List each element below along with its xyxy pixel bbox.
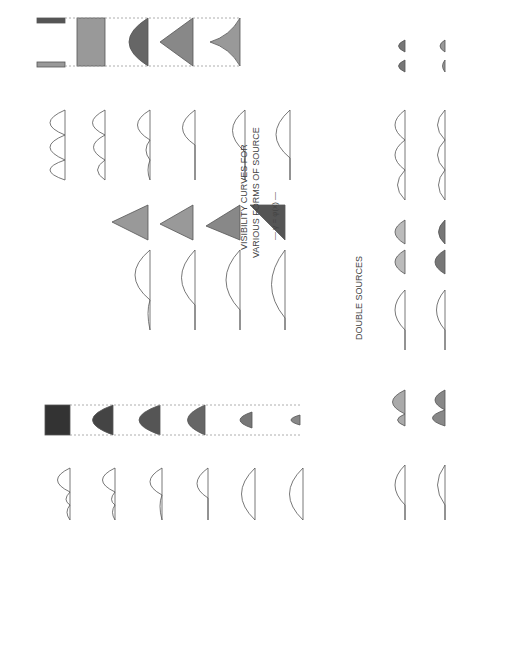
double-sources-rot: DOUBLE SOURCES xyxy=(355,256,364,340)
legend-rot: — γ = φ(x) — xyxy=(270,192,279,240)
title-line-1-rot: VISIBILITY CURVES FOR xyxy=(239,144,249,250)
title-rot: VISIBILITY CURVES FOR xyxy=(240,144,249,250)
figure-graphics xyxy=(0,0,517,659)
title-rot-2: VARIOUS FORMS OF SOURCE xyxy=(252,127,261,258)
title-line-2-rot: VARIOUS FORMS OF SOURCE xyxy=(251,127,261,258)
figure-overview: VISIBILITY CURVES FOR VARIOUS FORMS OF S… xyxy=(0,0,517,659)
